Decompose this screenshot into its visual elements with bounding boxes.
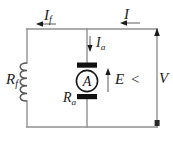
field-coil: [20, 63, 27, 101]
circuit-schematic-svg: A: [0, 0, 173, 146]
armature-current-label: Ia: [96, 36, 105, 52]
armature-letter: A: [82, 74, 92, 89]
field-coil-turns: [20, 63, 27, 101]
field-current-label: If: [44, 8, 52, 25]
armature-resistance-label: Ra: [63, 91, 76, 107]
armature-symbol: A: [76, 63, 97, 100]
back-emf-label: E: [115, 72, 124, 87]
armature-brush-bottom: [77, 94, 97, 99]
back-emf-arrowhead: [105, 68, 110, 75]
field-resistance-label: Rf: [6, 72, 18, 89]
armature-resistance-symbol: R: [63, 90, 72, 105]
field-resistance-subscript: f: [15, 78, 18, 89]
armature-brush-top: [77, 63, 97, 68]
circuit-diagram: A If I Ia Rf: [0, 0, 173, 146]
terminal-voltage-label: V: [159, 71, 168, 86]
armature-current-subscript: a: [101, 42, 106, 52]
field-current-subscript: f: [49, 14, 52, 25]
terminal-voltage-tail: [155, 120, 160, 126]
field-current-arrowhead: [36, 21, 43, 27]
armature-current-arrowhead: [87, 45, 92, 52]
line-current-label: I: [124, 7, 129, 22]
armature-resistance-subscript: a: [72, 97, 77, 107]
less-than-sign: <: [131, 72, 139, 87]
line-current-symbol: I: [124, 6, 129, 22]
field-resistance-symbol: R: [6, 71, 15, 87]
